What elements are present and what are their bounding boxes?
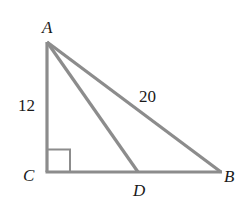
- triangle-figure: [0, 0, 241, 210]
- vertex-label-c: C: [23, 167, 34, 184]
- vertex-label-d: D: [133, 182, 145, 199]
- side-label-ab: 20: [139, 88, 156, 105]
- right-angle-marker: [47, 150, 70, 173]
- vertex-label-a: A: [42, 19, 52, 36]
- triangle-diagram: A 12 20 C D B: [0, 0, 241, 210]
- segment-ab: [47, 42, 221, 172]
- side-label-ac: 12: [18, 97, 35, 114]
- segment-ad: [47, 42, 138, 172]
- vertex-label-b: B: [224, 168, 234, 185]
